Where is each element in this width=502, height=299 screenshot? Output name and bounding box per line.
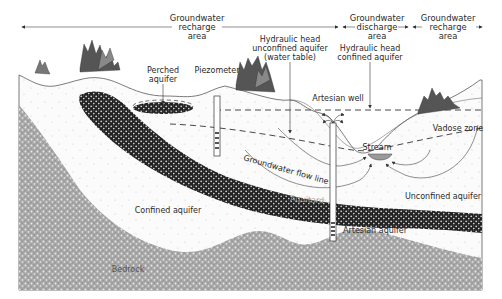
label-hydraulic-head-unconfined-2: unconfined aquifer — [252, 44, 328, 53]
label-unconfined-aquifer: Unconfined aquifer — [405, 192, 482, 201]
label-hydraulic-head-confined: Hydraulic head — [340, 44, 400, 53]
label-hydraulic-head-confined-2: confined aquifer — [337, 53, 403, 62]
label-hydraulic-head-unconfined: Hydraulic head — [260, 35, 320, 44]
label-hydraulic-head-unconfined-3: (water table) — [264, 53, 316, 62]
label-bedrock: Bedrock — [112, 265, 145, 274]
label-perched-aquifer-2: aquifer — [149, 75, 178, 84]
label-perched-aquifer: Perched — [147, 66, 179, 75]
zone-label-recharge-left-3: area — [188, 31, 207, 41]
label-stream: Stream — [363, 143, 392, 152]
zone-label-recharge-right-3: area — [439, 31, 458, 41]
label-artesian-aquifer: Artesian aquifer — [343, 226, 408, 235]
zone-header: Groundwater recharge area Groundwater di… — [22, 13, 482, 41]
label-confined-aquifer: Confined aquifer — [135, 206, 202, 215]
label-artesian-well: Artesian well — [312, 94, 364, 103]
label-vadose-zone: Vadose zone — [433, 124, 484, 133]
zone-label-discharge-3: area — [368, 31, 387, 41]
groundwater-diagram: Groundwater recharge area Groundwater di… — [0, 0, 502, 299]
label-piezometer: Piezometer — [195, 66, 241, 75]
trees-left — [35, 40, 120, 74]
piezometer — [214, 96, 220, 156]
